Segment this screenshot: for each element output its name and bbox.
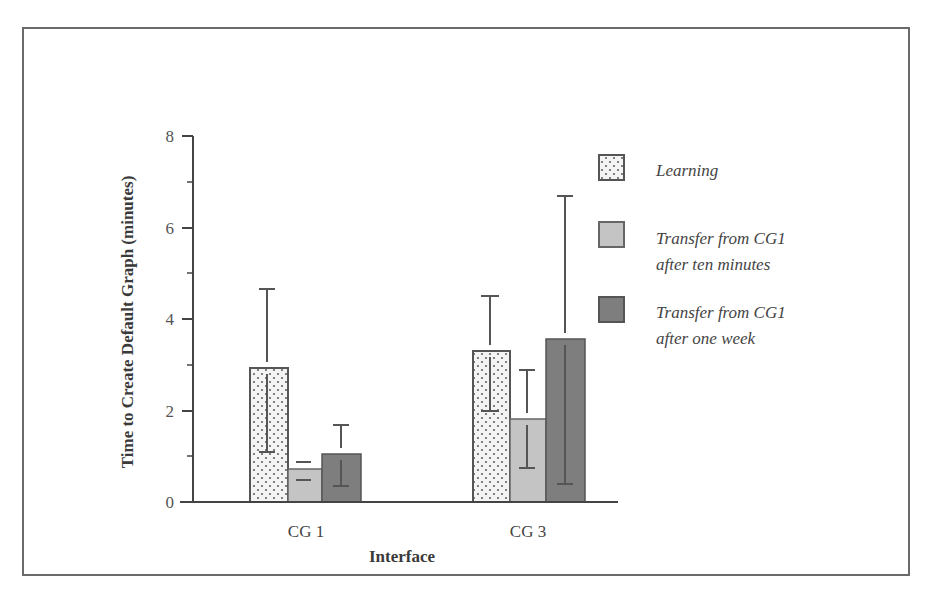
x-axis-label: Interface — [369, 547, 436, 566]
bar-learning-cg3 — [473, 351, 510, 502]
bar-group-cg1 — [250, 289, 361, 502]
bar-chart: Time to Create Default Graph (minutes) 0… — [0, 0, 948, 608]
y-axis: 0 2 4 6 8 — [166, 127, 194, 512]
bar-learning-cg1 — [250, 368, 288, 502]
y-tick-label: 4 — [166, 310, 175, 329]
x-tick-label-cg3: CG 3 — [510, 522, 546, 541]
bar-transfer-ten-cg1 — [288, 469, 322, 502]
legend: Learning Transfer from CG1 after ten min… — [599, 155, 786, 348]
x-tick-label-cg1: CG 1 — [288, 522, 324, 541]
legend-label-transfer-week-2: after one week — [656, 329, 756, 348]
legend-label-transfer-week: Transfer from CG1 — [656, 303, 786, 322]
legend-swatch-transfer-week — [599, 297, 624, 322]
y-tick-label: 6 — [166, 219, 175, 238]
legend-swatch-transfer-ten — [599, 222, 624, 247]
legend-swatch-learning — [599, 155, 624, 180]
legend-label-transfer-ten-2: after ten minutes — [656, 255, 771, 274]
bar-group-cg3 — [473, 196, 585, 502]
y-axis-label: Time to Create Default Graph (minutes) — [118, 176, 137, 469]
legend-label-transfer-ten: Transfer from CG1 — [656, 229, 786, 248]
legend-label-learning: Learning — [655, 161, 718, 180]
y-tick-label: 2 — [166, 402, 175, 421]
y-tick-label: 8 — [166, 127, 175, 146]
y-tick-label: 0 — [166, 493, 175, 512]
